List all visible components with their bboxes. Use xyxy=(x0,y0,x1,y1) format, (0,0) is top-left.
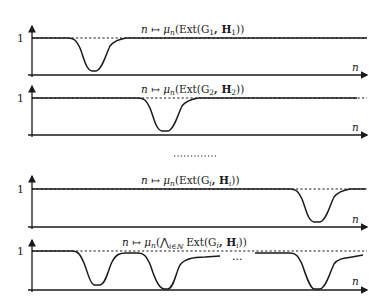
curve xyxy=(32,98,357,131)
panel-title: n ↦ μn(⋀i∈ℕ Ext(Gi, Hi)) xyxy=(122,236,247,251)
curve-segment-2 xyxy=(255,253,363,289)
curve-segment-1 xyxy=(32,251,220,289)
panel-title: n ↦ μn(Ext(G1, H1)) xyxy=(141,23,244,37)
panel-title: n ↦ μn(Ext(Gi, Hi)) xyxy=(141,174,240,188)
x-axis-label: n xyxy=(352,61,359,73)
y-tick-label: 1 xyxy=(17,245,24,258)
figure-canvas: 1 n n ↦ μn(Ext(G1, H1)) 1 n n ↦ μn(Ext(G… xyxy=(0,0,385,305)
curve xyxy=(32,189,366,222)
y-tick-label: 1 xyxy=(17,32,24,45)
panel-1: 1 n n ↦ μn(Ext(G1, H1)) xyxy=(17,23,367,77)
ellipsis: ... xyxy=(232,250,243,263)
panel-title: n ↦ μn(Ext(G2, H2)) xyxy=(141,83,244,97)
x-axis-label: n xyxy=(352,213,359,225)
x-axis-label: n xyxy=(352,121,359,133)
y-tick-label: 1 xyxy=(17,92,24,105)
panel-4: ... 1 n n ↦ μn(⋀i∈ℕ Ext(Gi, Hi)) xyxy=(17,236,367,292)
panel-3: 1 n n ↦ μn(Ext(Gi, Hi)) xyxy=(17,174,367,229)
y-tick-label: 1 xyxy=(17,183,24,196)
panel-2: 1 n n ↦ μn(Ext(G2, H2)) xyxy=(17,83,367,137)
x-axis-label: n xyxy=(352,275,359,287)
curve xyxy=(32,38,367,71)
